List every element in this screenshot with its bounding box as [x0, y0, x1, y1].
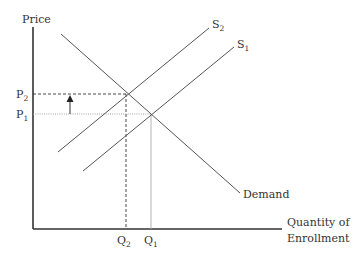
s1-label: S1 — [237, 38, 249, 53]
up-arrow-icon — [67, 95, 74, 102]
x-axis-label-line1: Quantity of — [287, 216, 350, 229]
x-axis-label-line2: Enrollment — [287, 232, 350, 245]
s2-label: S2 — [212, 18, 225, 33]
svg-text:Q2: Q2 — [117, 234, 131, 249]
q1-label: Q1 — [144, 234, 158, 249]
q2-label: Q2 — [117, 234, 131, 249]
supply-curve-s2 — [58, 28, 209, 152]
svg-text:S1: S1 — [237, 38, 249, 53]
y-axis-label: Price — [22, 13, 51, 26]
svg-text:P2: P2 — [16, 88, 28, 103]
p2-label: P2 — [16, 88, 28, 103]
svg-text:P1: P1 — [16, 108, 28, 123]
svg-text:Q1: Q1 — [144, 234, 158, 249]
supply-demand-diagram: Price P2 P1 Q2 Q1 S2 S1 Demand Quantity … — [0, 0, 360, 256]
supply-curve-s1 — [83, 47, 234, 171]
p1-label: P1 — [16, 108, 28, 123]
demand-label: Demand — [243, 188, 289, 201]
svg-text:S2: S2 — [212, 18, 225, 33]
demand-curve — [61, 34, 240, 193]
